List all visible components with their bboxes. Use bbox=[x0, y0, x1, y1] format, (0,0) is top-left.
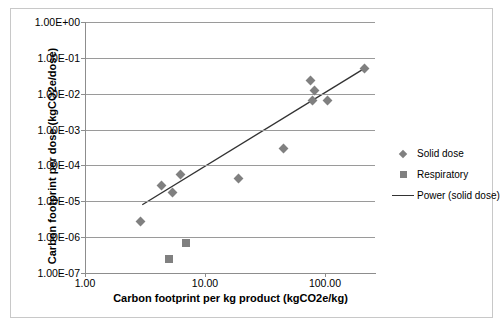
legend-marker-line-icon bbox=[392, 195, 414, 197]
chart-legend: Solid doseRespiratoryPower (solid dose) bbox=[392, 143, 492, 206]
y-axis-tick-labels: 1.00E+001.00E-011.00E-021.00E-031.00E-04… bbox=[0, 0, 80, 310]
y-tick-mark bbox=[81, 94, 85, 95]
y-tick-mark bbox=[81, 58, 85, 59]
y-tick-label: 1.00E-02 bbox=[37, 89, 80, 100]
y-tick-mark bbox=[81, 22, 85, 23]
y-axis-title: Carbon footprint per dose (kgCO2e/dose) bbox=[46, 26, 58, 286]
gridline bbox=[85, 237, 375, 238]
x-axis-line bbox=[85, 273, 376, 274]
data-point-square bbox=[165, 255, 173, 263]
y-axis-line bbox=[85, 22, 86, 274]
y-tick-label: 1.00E-01 bbox=[37, 53, 80, 64]
x-tick-label: 100.00 bbox=[295, 278, 355, 289]
gridline bbox=[85, 94, 375, 95]
legend-item-square[interactable]: Respiratory bbox=[392, 164, 492, 185]
x-tick-mark bbox=[205, 273, 206, 277]
power-trendline bbox=[85, 22, 375, 273]
legend-item-line[interactable]: Power (solid dose) bbox=[392, 185, 492, 206]
legend-label: Solid dose bbox=[414, 148, 464, 159]
gridline bbox=[85, 58, 375, 59]
y-tick-mark bbox=[81, 237, 85, 238]
legend-label: Respiratory bbox=[414, 169, 468, 180]
gridline bbox=[85, 165, 375, 166]
legend-marker-square-icon bbox=[392, 171, 414, 178]
y-tick-mark bbox=[81, 201, 85, 202]
gridline bbox=[85, 22, 375, 23]
y-axis-title-wrapper: Carbon footprint per dose (kgCO2e/dose) bbox=[14, 10, 34, 275]
legend-marker-diamond-icon bbox=[392, 151, 414, 157]
y-tick-label: 1.00E-07 bbox=[37, 268, 80, 279]
legend-label: Power (solid dose) bbox=[414, 190, 500, 201]
x-tick-label: 10.00 bbox=[175, 278, 235, 289]
gridline bbox=[85, 201, 375, 202]
gridline bbox=[85, 130, 375, 131]
y-tick-label: 1.00E-05 bbox=[37, 196, 80, 207]
legend-item-diamond[interactable]: Solid dose bbox=[392, 143, 492, 164]
y-tick-mark bbox=[81, 130, 85, 131]
y-tick-label: 1.00E-04 bbox=[37, 160, 80, 171]
chart-figure: 1.00E+001.00E-011.00E-021.00E-031.00E-04… bbox=[0, 0, 504, 334]
data-point-square bbox=[182, 239, 190, 247]
y-tick-label: 1.00E-03 bbox=[37, 125, 80, 136]
y-tick-label: 1.00E-06 bbox=[37, 232, 80, 243]
plot-area bbox=[85, 22, 375, 273]
y-tick-mark bbox=[81, 165, 85, 166]
x-axis-title: Carbon footprint per kg product (kgCO2e/… bbox=[85, 292, 376, 304]
x-tick-label: 1.00 bbox=[55, 278, 115, 289]
x-tick-mark bbox=[85, 273, 86, 277]
x-tick-mark bbox=[325, 273, 326, 277]
